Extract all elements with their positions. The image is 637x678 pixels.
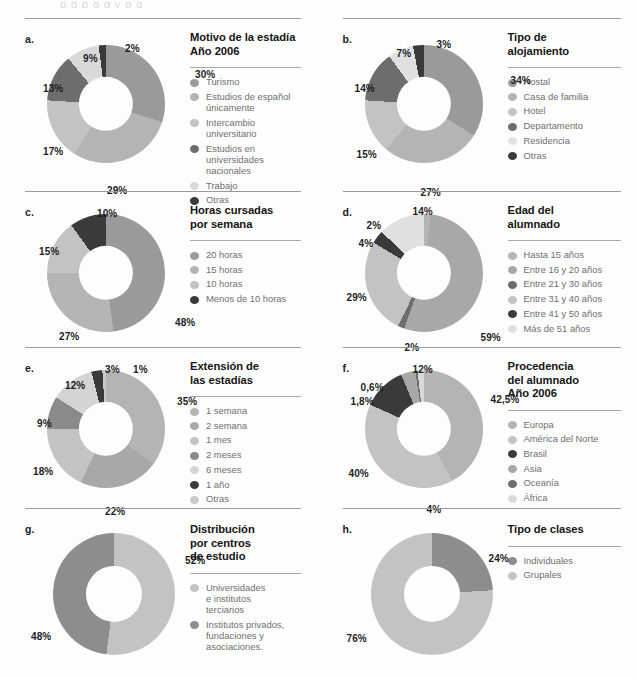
slice-percent-label: 18%	[33, 466, 53, 477]
slice-percent-label: 9%	[37, 418, 52, 429]
legend-item[interactable]: Asia	[508, 463, 622, 474]
legend-item-label: Otras	[206, 493, 229, 504]
chart-row: c. 48%27%15%10% Horas cursadas por seman…	[0, 191, 637, 347]
legend-item[interactable]: 20 horas	[190, 249, 301, 260]
legend-item[interactable]: 2 semana	[190, 420, 301, 431]
slice-percent-label: 34%	[511, 75, 531, 86]
donut-chart-g[interactable]	[53, 533, 175, 655]
donut-chart-c[interactable]	[47, 214, 165, 332]
slice-percent-label: 40%	[349, 468, 369, 479]
legend-item[interactable]: Europa	[508, 419, 622, 430]
donut-wrap-e: 35%22%18%9%12%3%1%	[47, 370, 165, 488]
donut-chart-h[interactable]	[371, 533, 493, 655]
legend-list-c: 20 horas15 horas10 horasMenos de 10 hora…	[190, 249, 301, 304]
legend-item[interactable]: Entre 16 y 20 años	[508, 264, 622, 275]
donut-wrap-d: 59%29%14%4%2%2%	[365, 214, 483, 332]
legend-item[interactable]: Intercambio universitario	[190, 117, 301, 139]
legend-item[interactable]: Individuales	[508, 555, 622, 566]
legend-item[interactable]: Entre 21 y 30 años	[508, 278, 622, 289]
donut-chart-d[interactable]	[365, 214, 483, 332]
legend-item[interactable]: 1 semana	[190, 405, 301, 416]
chart-letter-c: c.	[25, 206, 34, 218]
legend-item-label: 6 meses	[206, 464, 241, 475]
legend-swatch-icon	[190, 422, 199, 430]
legend-item[interactable]: Otras	[190, 493, 301, 504]
legend-item[interactable]: Brasil	[508, 448, 622, 459]
chart-letter-b: b.	[343, 33, 353, 45]
legend-divider	[508, 67, 622, 68]
legend-item[interactable]: 1 año	[190, 479, 301, 490]
legend-item[interactable]: Otras	[508, 150, 622, 161]
slice-percent-label: 2%	[125, 43, 140, 54]
legend-title-a: Motivo de la estadía Año 2006	[190, 31, 301, 58]
chart-letter-h: h.	[343, 523, 353, 535]
chart-letter-a: a.	[25, 33, 34, 45]
legend-item[interactable]: 1 mes	[190, 434, 301, 445]
chart-letter-f: f.	[343, 362, 350, 374]
legend-item-label: 1 año	[206, 479, 229, 490]
legend-a: Motivo de la estadía Año 2006 TurismoEst…	[190, 19, 301, 209]
legend-g: Distribución por centros de estudio Univ…	[190, 509, 301, 656]
legend-swatch-icon	[190, 437, 199, 445]
chart-cell-a: a. 30%29%17%13%9%2% Motivo de la estadía…	[0, 18, 319, 191]
legend-swatch-icon	[190, 296, 199, 304]
legend-swatch-icon	[508, 557, 517, 565]
legend-item[interactable]: Institutos privados, fundaciones y asoci…	[190, 619, 301, 653]
donut-chart-a[interactable]	[47, 45, 165, 163]
legend-swatch-icon	[508, 465, 517, 473]
legend-item-label: 1 semana	[206, 405, 247, 416]
legend-item-label: 2 semana	[206, 420, 247, 431]
legend-item-label: 10 horas	[206, 278, 242, 289]
legend-item[interactable]: Departamento	[508, 120, 622, 131]
legend-item[interactable]: 15 horas	[190, 264, 301, 275]
legend-item-label: Menos de 10 horas	[206, 293, 286, 304]
chart-cell-c: c. 48%27%15%10% Horas cursadas por seman…	[0, 191, 319, 347]
slice-percent-label: 59%	[481, 332, 501, 343]
slice-percent-label: 12%	[65, 380, 85, 391]
legend-item[interactable]: Grupales	[508, 569, 622, 580]
legend-item[interactable]: Oceanía	[508, 477, 622, 488]
legend-swatch-icon	[190, 252, 199, 260]
legend-title-g: Distribución por centros de estudio	[190, 523, 301, 564]
legend-item[interactable]: Entre 41 y 50 años	[508, 308, 622, 319]
slice-percent-label: 48%	[175, 317, 195, 328]
chart-cell-d: d. 59%29%14%4%2%2% Edad del alumnado Has…	[319, 191, 637, 347]
chart-area-b: b. 34%27%15%14%7%3%	[343, 19, 508, 191]
legend-item[interactable]: Universidades e institutos terciarios	[190, 582, 301, 616]
legend-swatch-icon	[190, 93, 199, 101]
slice-percent-label: 29%	[347, 292, 367, 303]
legend-item[interactable]: Más de 51 años	[508, 323, 622, 334]
legend-item[interactable]: Residencia	[508, 135, 622, 146]
legend-divider	[190, 240, 301, 241]
legend-item[interactable]: África	[508, 492, 622, 503]
legend-item[interactable]: Hasta 15 años	[508, 249, 622, 260]
legend-list-d: Hasta 15 añosEntre 16 y 20 añosEntre 21 …	[508, 249, 622, 334]
donut-chart-b[interactable]	[365, 45, 483, 163]
slice-percent-label: 27%	[59, 331, 79, 342]
legend-item[interactable]: Trabajo	[190, 180, 301, 191]
legend-item[interactable]: Estudios en universidades nacionales	[190, 143, 301, 177]
legend-title-h: Tipo de clases	[508, 523, 622, 537]
slice-percent-label: 14%	[355, 83, 375, 94]
legend-item[interactable]: Entre 31 y 40 años	[508, 293, 622, 304]
legend-item[interactable]: 10 horas	[190, 278, 301, 289]
legend-swatch-icon	[508, 421, 517, 429]
legend-item[interactable]: Casa de familia	[508, 91, 622, 102]
legend-swatch-icon	[190, 621, 199, 629]
legend-item[interactable]: América del Norte	[508, 433, 622, 444]
legend-list-b: HostalCasa de familiaHotelDepartamentoRe…	[508, 76, 622, 161]
legend-item[interactable]: 2 meses	[190, 449, 301, 460]
legend-item-label: Oceanía	[524, 477, 559, 488]
legend-item-label: Europa	[524, 419, 554, 430]
legend-title-f: Procedencia del alumnado Año 2006	[508, 360, 622, 401]
legend-e: Extensión de las estadías 1 semana2 sema…	[190, 348, 301, 508]
legend-item[interactable]: Menos de 10 horas	[190, 293, 301, 304]
chart-letter-e: e.	[25, 362, 34, 374]
legend-item[interactable]: Hotel	[508, 105, 622, 116]
chart-letter-g: g.	[25, 523, 35, 535]
legend-list-h: IndividualesGrupales	[508, 555, 622, 581]
legend-item[interactable]: 6 meses	[190, 464, 301, 475]
legend-item[interactable]: Estudios de español únicamente	[190, 91, 301, 113]
legend-h: Tipo de clases IndividualesGrupales	[508, 509, 622, 584]
top-bleed-text: p g p g g y p g	[60, 0, 530, 8]
